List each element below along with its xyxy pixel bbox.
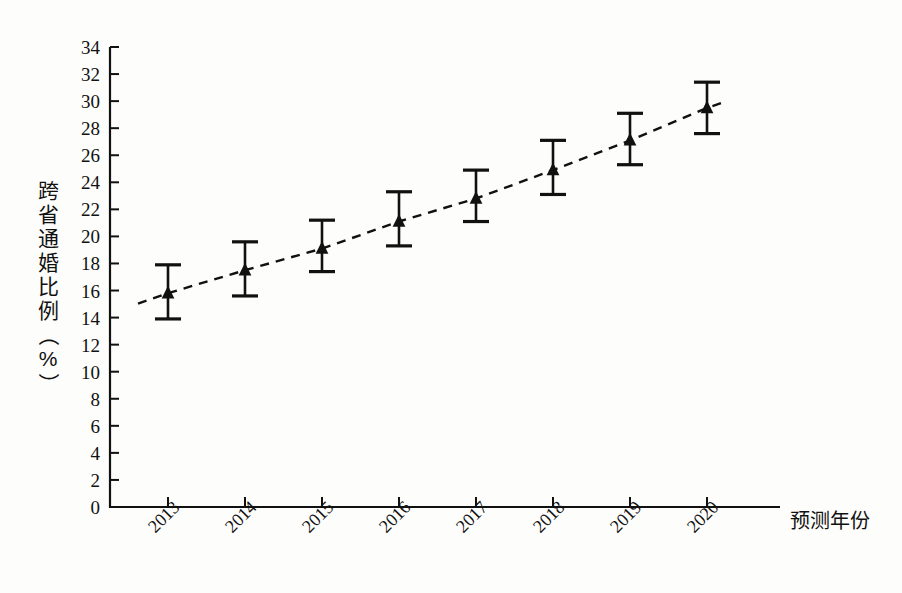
x-tick-label: 2020 — [683, 497, 723, 537]
data-point-marker — [701, 100, 714, 113]
y-tick-label: 2 — [91, 470, 101, 491]
x-tick-label: 2014 — [221, 497, 261, 537]
x-tick-label: 2013 — [144, 497, 184, 537]
x-tick-label: 2016 — [375, 497, 415, 537]
y-axis-title-char: % — [39, 347, 58, 370]
chart-page: 跨省通婚比例（%） 024681012141618202224262830323… — [0, 0, 902, 593]
y-axis-title-char: ） — [37, 373, 60, 394]
y-tick-label: 26 — [81, 145, 100, 166]
y-axis-title-char: 比 — [38, 275, 59, 298]
x-tick-label: 2018 — [529, 497, 569, 537]
axis-lines — [110, 47, 780, 507]
y-axis-title-char: 省 — [38, 203, 59, 226]
y-tick-label: 14 — [81, 308, 101, 329]
x-tick-label: 2019 — [606, 497, 646, 537]
y-axis-title-char: 通 — [38, 227, 59, 250]
y-tick-label: 8 — [91, 389, 101, 410]
y-tick-label: 34 — [81, 37, 101, 58]
trend-line — [138, 103, 721, 304]
y-tick-label: 10 — [81, 362, 100, 383]
error-bars — [155, 82, 720, 319]
x-axis-title: 预测年份 — [790, 510, 870, 532]
y-tick-label: 0 — [91, 497, 101, 518]
y-tick-label: 4 — [91, 443, 101, 464]
y-tick-label: 20 — [81, 226, 100, 247]
y-axis-title-char: 例 — [38, 299, 59, 322]
y-tick-label: 12 — [81, 335, 100, 356]
y-tick-label: 32 — [81, 64, 100, 85]
y-tick-label: 6 — [91, 416, 101, 437]
y-tick-label: 28 — [81, 118, 100, 139]
y-axis-title-char: 婚 — [38, 251, 59, 274]
x-tick-label: 2017 — [452, 497, 492, 537]
y-axis-title-char: 跨 — [38, 179, 59, 202]
y-axis-title: 跨省通婚比例（%） — [37, 179, 60, 394]
y-axis-title-char: （ — [37, 325, 60, 346]
y-tick-label: 30 — [81, 91, 100, 112]
line-chart-with-error-bars: 跨省通婚比例（%） 024681012141618202224262830323… — [0, 0, 902, 593]
y-tick-label: 16 — [81, 281, 100, 302]
data-point-marker — [624, 133, 637, 146]
dashed-trend-line — [138, 103, 721, 304]
y-tick-label: 24 — [81, 172, 101, 193]
x-tick-label: 2015 — [298, 497, 338, 537]
y-tick-label: 18 — [81, 253, 100, 274]
y-tick-label: 22 — [81, 199, 100, 220]
axis-frame — [110, 47, 780, 507]
x-axis-ticks: 20132014201520162017201820192020 — [144, 497, 723, 537]
y-axis-ticks: 0246810121416182022242628303234 — [81, 37, 119, 518]
